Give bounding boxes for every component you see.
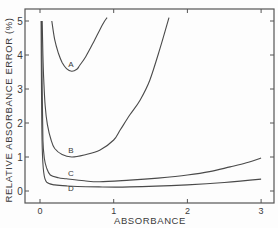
y-tick-label: 2 bbox=[17, 118, 23, 129]
curve-labels: ABCD bbox=[68, 60, 74, 193]
y-tick-label: 4 bbox=[17, 50, 23, 61]
curve-b bbox=[42, 18, 169, 157]
x-tick-label: 3 bbox=[259, 206, 264, 216]
x-axis-label: ABSORBANCE bbox=[114, 215, 186, 226]
curve-label-c: C bbox=[68, 169, 74, 178]
curve-label-b: B bbox=[68, 146, 73, 155]
line-chart: 0123 012345 ABCD ABSORBANCE RELATIVE ABS… bbox=[0, 0, 278, 228]
y-tick-label: 0 bbox=[17, 186, 23, 197]
curves bbox=[41, 18, 261, 188]
y-axis-label: RELATIVE ABSORBANCE ERROR (%) bbox=[3, 17, 14, 202]
axis-ticks bbox=[25, 9, 274, 203]
y-tick-label: 1 bbox=[17, 152, 23, 163]
curve-label-a: A bbox=[68, 60, 74, 69]
y-tick-label: 5 bbox=[17, 16, 23, 27]
curve-a bbox=[52, 18, 107, 72]
x-tick-label: 0 bbox=[37, 206, 42, 216]
y-tick-label: 3 bbox=[17, 84, 23, 95]
curve-label-d: D bbox=[68, 184, 74, 193]
chart-figure: 0123 012345 ABCD ABSORBANCE RELATIVE ABS… bbox=[0, 0, 278, 228]
y-tick-labels: 012345 bbox=[17, 16, 23, 197]
curve-c bbox=[42, 21, 262, 182]
curve-d bbox=[41, 21, 261, 187]
plot-frame bbox=[25, 9, 274, 203]
